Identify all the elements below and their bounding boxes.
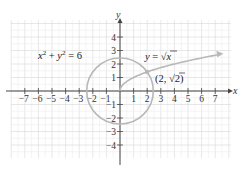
x-tick-label: −6 xyxy=(32,94,42,104)
x-tick-label: 7 xyxy=(213,94,218,104)
circle-equation: x2 + y2 = 6 xyxy=(37,49,82,61)
curve-arrow-icon xyxy=(216,51,223,58)
y-tick-label: 1 xyxy=(111,73,116,83)
x-tick-label: 3 xyxy=(158,94,163,104)
y-tick-label: −1 xyxy=(106,100,116,110)
y-tick-label: −3 xyxy=(106,127,116,137)
point-label: (2, √2) xyxy=(155,73,184,85)
x-axis-label: x xyxy=(232,85,238,96)
y-tick-label: 2 xyxy=(111,60,116,70)
x-tick-label: 5 xyxy=(186,94,191,104)
x-tick-label: 6 xyxy=(199,94,204,104)
y-tick-label: 3 xyxy=(111,46,116,56)
x-tick-label: 1 xyxy=(131,94,136,104)
x-tick-label: −5 xyxy=(46,94,56,104)
graph: −7−6−5−4−3−2−11234567−4−3−2−11234 x y x2… xyxy=(0,0,245,169)
x-tick-label: 4 xyxy=(172,94,177,104)
x-tick-label: −7 xyxy=(19,94,29,104)
y-axis-label: y xyxy=(115,9,121,20)
axes xyxy=(6,18,233,165)
x-tick-label: −4 xyxy=(60,94,70,104)
y-tick-label: −4 xyxy=(106,141,116,151)
sqrt-equation: y = √x xyxy=(144,51,172,62)
y-tick-label: 4 xyxy=(111,33,116,43)
x-tick-label: −3 xyxy=(73,94,83,104)
x-tick-label: 2 xyxy=(145,94,150,104)
intersection-point xyxy=(145,70,149,74)
